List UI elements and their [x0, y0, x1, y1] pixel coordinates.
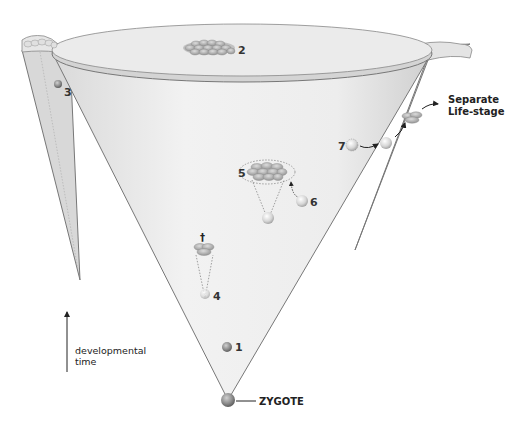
- axis-label-line1: developmental: [75, 345, 146, 356]
- axis-label-line2: time: [75, 356, 97, 367]
- free-cell: [380, 137, 392, 149]
- marker-label-3: 3: [64, 86, 72, 99]
- developmental-cone-diagram: 2 3 † 4 5: [0, 0, 521, 430]
- separate-cluster: [402, 112, 422, 123]
- arrow-to-separate-lifestage: [422, 104, 438, 109]
- zygote-cell: [221, 393, 235, 407]
- cell-marker-7: [346, 139, 358, 151]
- cell-marker-6: [296, 195, 308, 207]
- separate-label-line2: Life-stage: [448, 106, 505, 117]
- marker-label-2: 2: [238, 44, 246, 57]
- marker-label-5: 5: [238, 167, 246, 180]
- marker-label-6: 6: [310, 196, 318, 209]
- marker-label-4: 4: [213, 290, 221, 303]
- marker-label-1: 1: [235, 341, 243, 354]
- zygote-label: ZYGOTE: [259, 396, 304, 407]
- cell-marker-1: [222, 342, 232, 352]
- cell-marker-3: [54, 80, 62, 88]
- separate-label-line1: Separate: [448, 94, 499, 105]
- dagger-symbol: †: [200, 232, 205, 243]
- marker-label-7: 7: [338, 140, 346, 153]
